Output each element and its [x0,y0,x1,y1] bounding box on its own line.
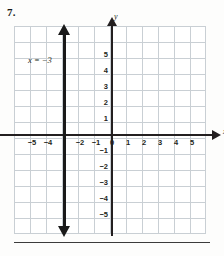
y-tick-label: −5 [94,210,108,219]
problem-number: 7. [7,6,16,18]
x-tick-label: 5 [185,138,199,147]
equation-label: x = −3 [28,55,52,65]
y-tick-label: −1 [94,146,108,155]
y-axis-line [111,24,113,236]
x-tick-label: 4 [169,138,183,147]
x-tick-label: 2 [137,138,151,147]
plot-line-arrow-down-icon [58,226,70,237]
y-tick-label: 3 [94,82,108,91]
x-tick-label: 1 [121,138,135,147]
y-tick-label: −2 [94,162,108,171]
y-tick-label: −4 [94,194,108,203]
x-axis-label: x [223,127,224,136]
bottom-divider [14,242,210,243]
x-tick-label: −4 [41,138,55,147]
x-axis-arrow-icon [212,130,221,140]
y-tick-label: −3 [94,178,108,187]
plotted-line-x-equals-negative-3 [63,33,65,228]
y-tick-label: 1 [94,114,108,123]
x-tick-label: 3 [153,138,167,147]
coordinate-graph: x y x = −3 −5−4−2−1012345 54321−1−2−3−4−… [14,26,206,234]
y-tick-label: 5 [94,50,108,59]
plot-line-arrow-up-icon [58,24,70,35]
y-axis-label: y [114,12,118,21]
y-tick-label: 4 [94,66,108,75]
x-axis-line [0,134,214,136]
x-tick-label: −5 [25,138,39,147]
y-tick-label: 2 [94,98,108,107]
x-tick-label: −2 [73,138,87,147]
